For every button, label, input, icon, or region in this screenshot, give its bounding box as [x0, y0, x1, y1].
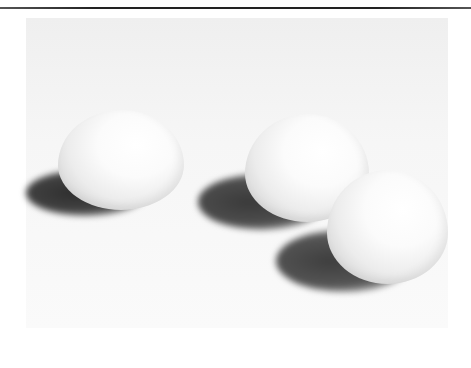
egg-photo	[26, 18, 448, 328]
egg	[327, 170, 448, 284]
top-rule	[0, 7, 471, 9]
egg	[58, 110, 184, 210]
